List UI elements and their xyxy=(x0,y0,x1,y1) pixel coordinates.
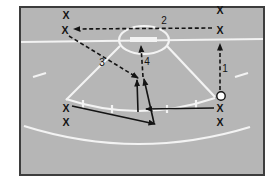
movement-label-4: 4 xyxy=(144,56,150,67)
player-top-left-1: X xyxy=(62,9,69,21)
movement-arrow-solid-4 xyxy=(137,80,138,112)
player-bottom-right-1: X xyxy=(216,102,223,114)
ball-marker xyxy=(217,92,225,100)
player-bottom-right-2: X xyxy=(216,116,223,128)
movement-arrow-solid-6 xyxy=(146,108,214,109)
player-top-right-2: X xyxy=(216,24,223,36)
movement-label-2: 2 xyxy=(161,15,167,26)
field-frame xyxy=(20,7,264,175)
tactics-field-svg: 1234XXXXXXXX xyxy=(0,0,279,194)
movement-label-3: 3 xyxy=(99,57,105,68)
figure: 1234XXXXXXXX xyxy=(0,0,279,194)
movement-label-1: 1 xyxy=(222,63,228,74)
player-bottom-left-1: X xyxy=(62,102,69,114)
player-top-left-2: X xyxy=(61,24,68,36)
goal-bar xyxy=(130,37,157,42)
player-top-right-1: X xyxy=(216,4,223,16)
player-bottom-left-2: X xyxy=(62,116,69,128)
